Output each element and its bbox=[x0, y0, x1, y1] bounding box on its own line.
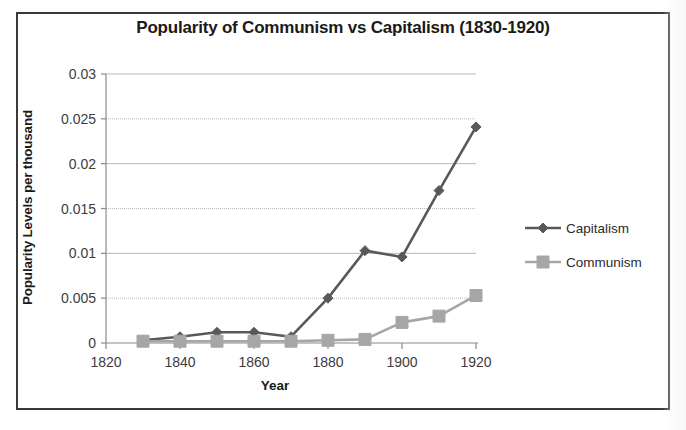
legend-label: Capitalism bbox=[566, 221, 629, 236]
data-point bbox=[248, 335, 260, 347]
data-point bbox=[396, 316, 408, 328]
x-tick-label: 1840 bbox=[164, 354, 195, 370]
legend-item-capitalism[interactable]: Capitalism bbox=[525, 221, 629, 236]
y-tick-label: 0.015 bbox=[61, 201, 96, 217]
data-point bbox=[211, 335, 223, 347]
x-tick-label: 1820 bbox=[90, 354, 121, 370]
y-axis-ticks: 00.0050.010.0150.020.0250.03 bbox=[61, 66, 106, 351]
data-point bbox=[174, 335, 186, 347]
series-layer bbox=[137, 122, 482, 347]
chart-legend: CapitalismCommunism bbox=[525, 221, 642, 270]
legend-marker bbox=[537, 256, 549, 268]
y-tick-label: 0.025 bbox=[61, 111, 96, 127]
y-tick-label: 0.03 bbox=[69, 66, 96, 82]
data-point bbox=[470, 289, 482, 301]
x-tick-label: 1920 bbox=[460, 354, 491, 370]
y-tick-label: 0.01 bbox=[69, 245, 96, 261]
chart-container: Popularity of Communism vs Capitalism (1… bbox=[0, 0, 686, 430]
gridlines bbox=[106, 74, 476, 298]
series-capitalism bbox=[138, 122, 481, 345]
data-point bbox=[433, 310, 445, 322]
x-tick-label: 1860 bbox=[238, 354, 269, 370]
legend-marker bbox=[538, 223, 548, 233]
y-tick-label: 0.02 bbox=[69, 156, 96, 172]
data-point bbox=[322, 334, 334, 346]
legend-label: Communism bbox=[566, 255, 642, 270]
data-point bbox=[137, 335, 149, 347]
data-point bbox=[359, 333, 371, 345]
y-tick-label: 0.005 bbox=[61, 290, 96, 306]
plot-area: 00.0050.010.0150.020.0250.03 18201840186… bbox=[0, 0, 686, 430]
legend-item-communism[interactable]: Communism bbox=[525, 255, 642, 270]
x-tick-label: 1900 bbox=[386, 354, 417, 370]
series-line bbox=[143, 127, 476, 340]
data-point bbox=[285, 335, 297, 347]
y-tick-label: 0 bbox=[88, 335, 96, 351]
x-tick-label: 1880 bbox=[312, 354, 343, 370]
